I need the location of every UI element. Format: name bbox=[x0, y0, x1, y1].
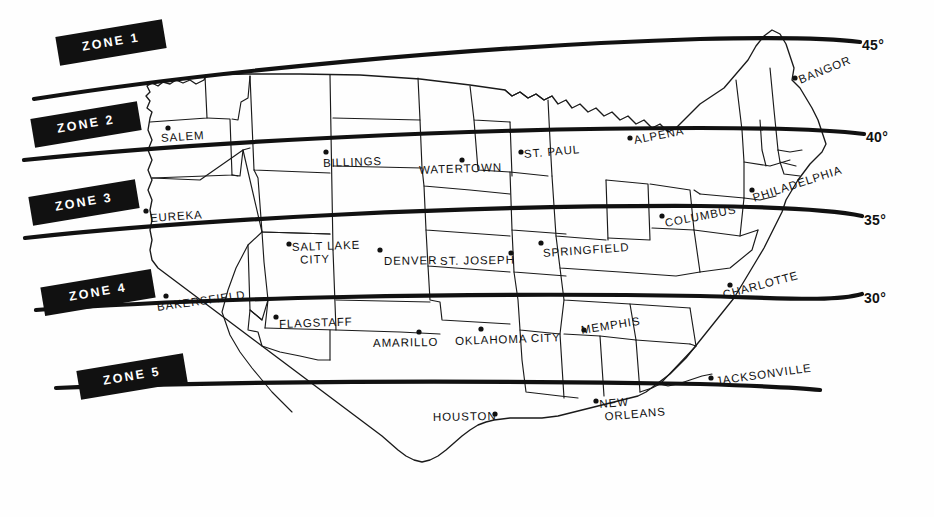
latitude-label-45: 45° bbox=[862, 37, 884, 53]
city-dot-new-orleans bbox=[593, 398, 598, 403]
city-dot-amarillo bbox=[416, 329, 421, 334]
city-label-houston: HOUSTON bbox=[433, 410, 497, 423]
city-dot-salem bbox=[165, 125, 170, 130]
city-dot-billings bbox=[323, 149, 328, 154]
zone-tag-label: ZONE 1 bbox=[81, 30, 141, 53]
city-label-billings: BILLINGS bbox=[323, 155, 382, 169]
city-dot-jacksonville bbox=[708, 375, 713, 380]
city-dot-springfield bbox=[538, 240, 543, 245]
zone-tag-label: ZONE 5 bbox=[102, 364, 162, 387]
city-dot-bakersfield bbox=[163, 293, 168, 298]
city-label-amarillo: AMARILLO bbox=[373, 336, 439, 349]
city-label-denver: DENVER bbox=[384, 254, 438, 267]
city-label-line-1: SALT LAKE bbox=[292, 239, 361, 254]
state-borders bbox=[146, 30, 826, 462]
city-dot-eureka bbox=[143, 208, 148, 213]
city-dot-alpena bbox=[627, 135, 632, 140]
city-label-flagstaff: FLAGSTAFF bbox=[279, 315, 353, 330]
latitude-label-40: 40° bbox=[866, 129, 888, 145]
latitude-label-35: 35° bbox=[864, 212, 886, 228]
city-label-line-2: CITY bbox=[292, 251, 361, 266]
zone-tag-label: ZONE 3 bbox=[54, 190, 114, 213]
latitude-label-30: 30° bbox=[864, 290, 886, 306]
city-dot-oklahoma-city bbox=[478, 326, 483, 331]
zone-tag-label: ZONE 2 bbox=[56, 112, 116, 135]
city-label-st-joseph: ST. JOSEPH bbox=[440, 254, 515, 267]
city-label-salt-lake-city: SALT LAKE CITY bbox=[292, 239, 361, 266]
city-dot-flagstaff bbox=[273, 314, 278, 319]
climate-zone-map: ZONE 1 ZONE 2 ZONE 3 ZONE 4 ZONE 5 45° 4… bbox=[0, 0, 934, 517]
city-dot-denver bbox=[377, 247, 382, 252]
zone-tag-label: ZONE 4 bbox=[68, 280, 128, 303]
